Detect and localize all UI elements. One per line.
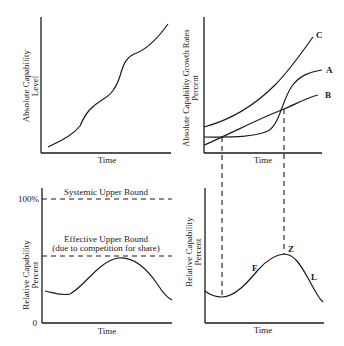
y-axis-label-line2: Percent (30, 261, 40, 288)
y-axis-label-line2: Percent (190, 75, 200, 101)
x-axis-label: Time (98, 326, 117, 336)
relative-capability-curve (45, 258, 172, 300)
curve-b (204, 95, 318, 145)
curve-c (204, 37, 313, 127)
tick-100-percent: 100% (18, 194, 40, 204)
tick-zero: 0 (33, 318, 38, 328)
capability-diagram: Absolute Capability Level Time C A B Abs… (0, 0, 344, 346)
curve-label-c: C (316, 30, 323, 40)
point-label-f: F (252, 263, 258, 273)
panel-relative-capability-bounds: 100% 0 Systemic Upper Bound Effective Up… (18, 187, 172, 336)
curve-label-a: A (326, 65, 333, 75)
absolute-capability-curve (48, 24, 168, 147)
panel-absolute-capability-level: Absolute Capability Level Time (21, 17, 171, 165)
systemic-upper-bound-label: Systemic Upper Bound (64, 187, 148, 197)
x-axis-label: Time (254, 155, 273, 165)
relative-capability-curve (205, 254, 323, 302)
point-label-z: Z (288, 244, 294, 254)
point-label-l: L (311, 272, 317, 282)
panel-absolute-capability-growth-rates: C A B Absolute Capability Growth Rates P… (181, 17, 333, 165)
y-axis-label-line2: Percent (193, 238, 203, 265)
panel-relative-capability-flz: F Z L Relative Capability Percent Time (184, 188, 324, 335)
curve-label-b: B (325, 90, 331, 100)
y-axis-label-line2: Level (30, 75, 40, 96)
x-axis-label: Time (254, 325, 273, 335)
curve-a (204, 70, 322, 137)
effective-upper-bound-note: (due to competition for share) (52, 243, 159, 253)
x-axis-label: Time (98, 155, 117, 165)
